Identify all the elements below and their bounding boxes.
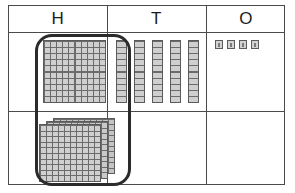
cell-ones-row2-empty xyxy=(206,111,286,186)
tens-rod-group xyxy=(116,40,199,103)
column-header-hundreds: H xyxy=(9,6,107,32)
tens-rod xyxy=(170,40,181,103)
tens-rod xyxy=(152,40,163,103)
cell-hundreds-row1 xyxy=(9,32,107,111)
tens-rod xyxy=(116,40,127,103)
ones-cube xyxy=(215,40,223,49)
hundreds-flat-stack-block xyxy=(39,118,115,182)
ones-cube-group xyxy=(215,40,259,49)
ones-cube xyxy=(227,40,235,49)
column-header-ones: O xyxy=(206,6,286,32)
column-header-tens: T xyxy=(107,6,206,32)
place-value-table: H T O xyxy=(8,5,285,185)
tens-rod xyxy=(134,40,145,103)
place-value-chart: H T O xyxy=(0,0,295,193)
cell-tens-row2-empty xyxy=(107,111,206,186)
cell-tens-row1 xyxy=(107,32,206,111)
cell-hundreds-row2 xyxy=(9,111,107,186)
ones-cube xyxy=(251,40,259,49)
hundreds-flat-block xyxy=(43,40,106,103)
hundreds-flat-front-layer xyxy=(39,124,101,182)
cell-ones-row1 xyxy=(206,32,286,111)
tens-rod xyxy=(188,40,199,103)
ones-cube xyxy=(239,40,247,49)
